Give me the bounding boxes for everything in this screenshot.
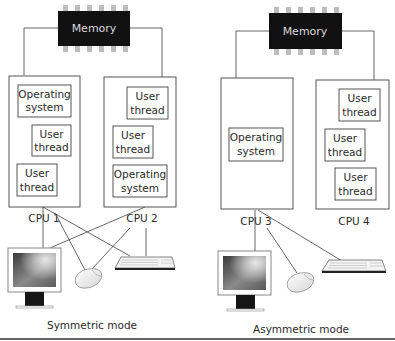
svg-text:thread: thread	[130, 104, 164, 116]
svg-text:thread: thread	[34, 141, 68, 153]
svg-text:thread: thread	[20, 181, 54, 193]
svg-text:Operating: Operating	[114, 168, 167, 180]
svg-text:User: User	[333, 132, 358, 144]
svg-text:User: User	[121, 129, 146, 141]
svg-text:User: User	[136, 90, 161, 102]
symmetric-mode-diagram: Memory Operating system User thread User…	[8, 5, 176, 331]
asymmetric-mode-diagram: Memory Operating system CPU 3 User threa…	[218, 7, 389, 335]
svg-text:system: system	[237, 145, 275, 157]
cpu-2-label: CPU 2	[126, 212, 157, 224]
asymmetric-mode-caption: Asymmetric mode	[253, 323, 349, 335]
memory-chip-symmetric: Memory	[58, 5, 130, 52]
svg-text:User: User	[25, 167, 50, 179]
memory-bus-wire	[130, 28, 162, 77]
cpu-4-label: CPU 4	[338, 215, 370, 227]
svg-text:Operating: Operating	[18, 88, 71, 100]
memory-bus-wire	[24, 28, 58, 75]
memory-label: Memory	[72, 22, 117, 35]
monitor-icon	[8, 248, 61, 308]
svg-text:thread: thread	[116, 143, 150, 155]
cpu-4-box: User thread User thread User thread	[316, 80, 389, 209]
cpu-3-box: Operating system	[221, 78, 293, 209]
keyboard-icon	[322, 260, 386, 273]
memory-bus-wire	[342, 31, 374, 80]
memory-bus-wire	[236, 31, 269, 79]
memory-chip-asymmetric: Memory	[269, 7, 342, 55]
svg-text:system: system	[121, 182, 159, 194]
svg-text:thread: thread	[342, 106, 376, 118]
svg-text:system: system	[26, 101, 64, 113]
monitor-icon	[218, 251, 271, 311]
mouse-icon	[287, 273, 314, 292]
svg-text:Operating: Operating	[230, 131, 283, 143]
svg-text:thread: thread	[328, 146, 362, 158]
cpu-3-label: CPU 3	[240, 215, 271, 227]
svg-text:User: User	[348, 92, 373, 104]
cpu-2-box: User thread User thread Operating system	[104, 77, 176, 207]
memory-label: Memory	[283, 25, 328, 38]
keyboard-icon	[115, 257, 175, 270]
symmetric-mode-caption: Symmetric mode	[47, 319, 137, 331]
cpu-1-box: Operating system User thread User thread	[9, 76, 80, 207]
svg-text:User: User	[344, 171, 369, 183]
svg-text:thread: thread	[338, 185, 372, 197]
svg-text:User: User	[40, 128, 65, 140]
mouse-icon	[75, 269, 102, 288]
